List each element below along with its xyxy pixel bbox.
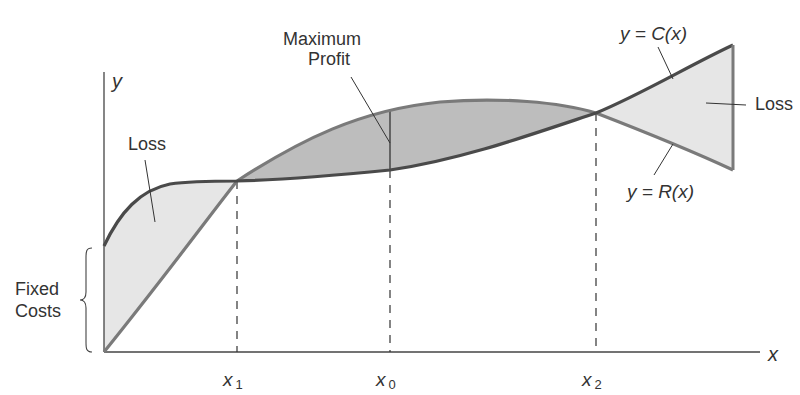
revenue-label-leader: [654, 144, 673, 175]
revenue-curve-label: y = R(x): [625, 181, 694, 202]
x0-label: x0: [375, 369, 396, 392]
fixed-costs-label-line2: Costs: [15, 301, 61, 321]
profit-loss-diagram: y x Loss Loss Maximum Profit Fixed Costs…: [0, 0, 800, 395]
fixed-costs-label-line1: Fixed: [15, 279, 59, 299]
profit-region: [237, 100, 596, 181]
diagram-canvas: y x Loss Loss Maximum Profit Fixed Costs…: [0, 0, 800, 395]
fixed-costs-brace: [80, 248, 92, 352]
loss-right-label: Loss: [755, 94, 793, 114]
x-axis-label: x: [767, 343, 779, 365]
x2-label: x2: [581, 369, 602, 392]
loss-region-right: [596, 45, 733, 170]
max-profit-label-line2: Profit: [308, 49, 350, 69]
x1-label: x1: [222, 369, 243, 392]
y-axis-label: y: [110, 70, 123, 92]
cost-curve-label: y = C(x): [618, 23, 687, 44]
loss-left-label: Loss: [128, 134, 166, 154]
max-profit-label-line1: Maximum: [283, 29, 361, 49]
cost-label-leader: [658, 47, 673, 79]
